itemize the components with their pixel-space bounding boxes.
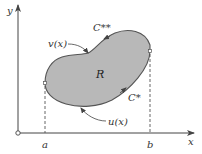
v-function-label: v(x) [48,38,67,49]
u-function-label: u(x) [108,116,128,127]
origin-marker [16,131,20,135]
v-pointer-arrow [68,44,88,53]
region-diagram: x y a b R C** C* v(x) u(x) [0,0,202,154]
point-b-marker [149,50,152,53]
y-axis-label: y [6,5,13,16]
bound-b-label: b [147,139,153,150]
point-a-marker [44,82,47,85]
c-double-star-label: C** [93,22,111,33]
bound-a-label: a [42,139,48,150]
u-pointer-arrow [81,108,106,121]
x-axis-label: x [188,136,194,147]
c-star-label: C* [128,92,141,103]
region-label: R [95,68,104,81]
